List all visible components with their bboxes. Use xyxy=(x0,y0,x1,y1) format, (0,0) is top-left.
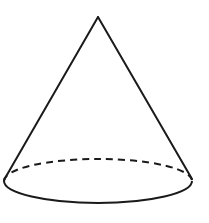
cone-figure xyxy=(0,0,209,223)
cone-left-edge xyxy=(4,17,98,180)
base-back-arc-dashed xyxy=(4,159,192,181)
cone-right-edge xyxy=(98,17,192,179)
base-front-arc-solid xyxy=(4,181,192,203)
cone-diagram xyxy=(0,0,209,223)
